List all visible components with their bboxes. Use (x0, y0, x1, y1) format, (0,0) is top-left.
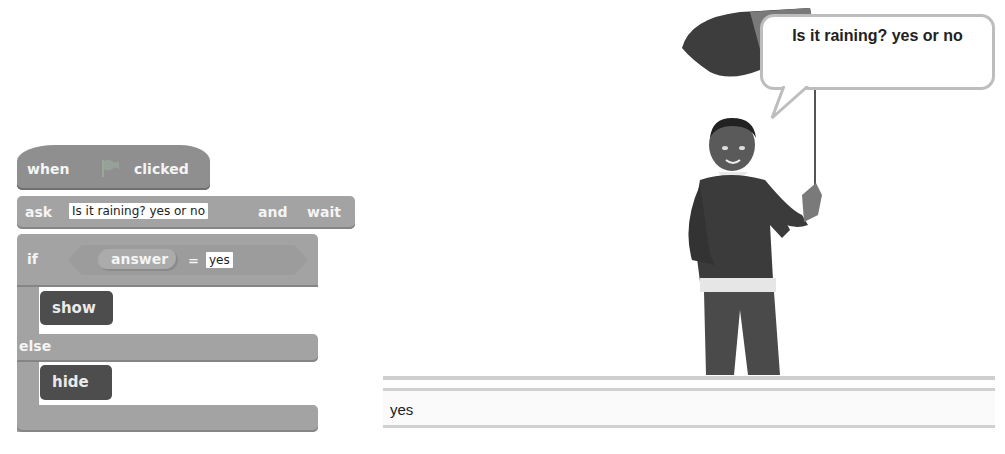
show-label: show (52, 299, 96, 317)
and-label: and (258, 204, 287, 220)
speech-bubble: Is it raining? yes or no (760, 14, 995, 90)
green-flag-icon (99, 158, 121, 178)
question-input[interactable]: Is it raining? yes or no (69, 203, 208, 219)
hide-block[interactable]: hide (40, 365, 112, 400)
else-arm: else (17, 334, 318, 362)
answer-input-value: yes (390, 401, 413, 418)
show-block[interactable]: show (40, 291, 113, 325)
ask-and-wait-block[interactable]: ask Is it raining? yes or no and wait (17, 196, 355, 229)
hide-label: hide (52, 373, 89, 391)
compare-value-input[interactable]: yes (206, 252, 233, 268)
wait-label: wait (307, 204, 341, 220)
else-label: else (19, 338, 51, 354)
answer-input-bar[interactable]: yes (383, 388, 995, 428)
if-label: if (27, 251, 38, 267)
stage-ground-line (383, 376, 995, 380)
speech-bubble-tail (770, 86, 830, 122)
ask-label: ask (25, 204, 52, 220)
answer-label: answer (111, 251, 168, 267)
clicked-label: clicked (134, 161, 189, 177)
when-flag-clicked-block[interactable]: when clicked (17, 145, 210, 190)
speech-bubble-text: Is it raining? yes or no (792, 27, 963, 44)
answer-reporter[interactable]: answer (98, 249, 178, 271)
equals-sign: = (188, 253, 199, 268)
when-label: when (27, 161, 69, 177)
if-else-bottom-arm (17, 405, 318, 432)
